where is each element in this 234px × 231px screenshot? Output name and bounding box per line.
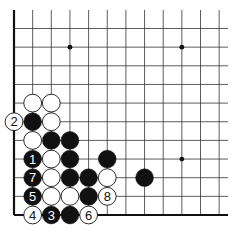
white-stone xyxy=(42,94,60,112)
star-point-icon xyxy=(179,157,184,162)
white-stone xyxy=(61,187,79,205)
white-stone xyxy=(24,132,42,150)
white-stone xyxy=(42,169,60,187)
black-stone: 7 xyxy=(24,169,42,187)
black-stone: 1 xyxy=(24,150,42,168)
move-number: 4 xyxy=(29,208,36,223)
move-number: 3 xyxy=(48,208,55,223)
white-stone xyxy=(42,187,60,205)
white-stone: 6 xyxy=(80,206,98,224)
white-stone: 8 xyxy=(98,187,116,205)
star-point-icon xyxy=(179,45,184,50)
white-stone xyxy=(42,150,60,168)
black-stone xyxy=(61,150,79,168)
move-number: 1 xyxy=(29,152,36,167)
move-number: 6 xyxy=(85,208,92,223)
black-stone xyxy=(24,113,42,131)
black-stone: 3 xyxy=(42,206,60,224)
black-stone xyxy=(61,206,79,224)
black-stone: 5 xyxy=(24,187,42,205)
black-stone xyxy=(80,187,98,205)
move-number: 7 xyxy=(29,170,36,185)
move-number: 8 xyxy=(104,189,111,204)
white-stone: 4 xyxy=(24,206,42,224)
black-stone xyxy=(136,169,154,187)
white-stone xyxy=(24,94,42,112)
white-stone: 2 xyxy=(5,113,23,131)
move-number: 5 xyxy=(29,189,36,204)
white-stone xyxy=(98,169,116,187)
black-stone xyxy=(61,132,79,150)
white-stone xyxy=(42,113,60,131)
black-stone xyxy=(42,132,60,150)
black-stone xyxy=(98,150,116,168)
move-number: 2 xyxy=(10,114,17,129)
black-stone xyxy=(80,169,98,187)
black-stone xyxy=(61,169,79,187)
go-board-diagram: 21758436 xyxy=(0,0,234,231)
star-point-icon xyxy=(68,45,73,50)
